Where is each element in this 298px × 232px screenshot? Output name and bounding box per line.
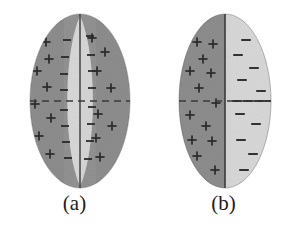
minus-sign (256, 90, 266, 92)
minus-sign (61, 125, 69, 127)
plus-sign (96, 66, 98, 75)
plus-sign (196, 151, 198, 160)
minus-sign (63, 39, 71, 41)
plus-sign (202, 54, 204, 63)
plus-sign (49, 149, 51, 158)
minus-sign (60, 73, 68, 75)
minus-sign (241, 39, 251, 41)
plus-sign (95, 133, 97, 142)
plus-sign (91, 33, 93, 42)
panel-b-caption: (b) (149, 190, 298, 216)
plus-sign (198, 83, 200, 92)
minus-sign (248, 153, 258, 155)
minus-sign (88, 70, 96, 72)
minus-sign (86, 35, 94, 37)
plus-sign (36, 66, 38, 75)
minus-sign (60, 109, 68, 111)
minus-sign (237, 79, 247, 81)
plus-sign (48, 54, 50, 63)
plus-sign (214, 165, 216, 174)
plus-sign (212, 39, 214, 48)
minus-sign (84, 158, 92, 160)
minus-sign (64, 157, 72, 159)
plus-sign (205, 121, 207, 130)
minus-sign (87, 123, 95, 125)
panel-a-caption: (a) (0, 190, 149, 216)
plus-sign (50, 113, 52, 122)
plus-sign (38, 131, 40, 140)
panel-b: (b) (149, 0, 298, 232)
minus-sign (236, 139, 246, 141)
plus-sign (110, 83, 112, 92)
minus-sign (249, 67, 259, 69)
minus-sign (235, 113, 245, 115)
minus-sign (62, 141, 70, 143)
plus-sign (191, 135, 193, 144)
figure-container: (a) (b) (0, 0, 298, 232)
minus-sign (88, 87, 96, 89)
plus-sign (111, 121, 113, 130)
plus-sign (210, 68, 212, 77)
plus-sign (104, 47, 106, 56)
minus-sign (60, 89, 68, 91)
panel-a-ellipse-body (30, 14, 130, 188)
plus-sign (189, 66, 191, 75)
minus-sign (61, 56, 69, 58)
panel-a: (a) (0, 0, 149, 232)
minus-sign (87, 54, 95, 56)
plus-sign (46, 82, 48, 91)
plus-sign (196, 37, 198, 46)
plus-sign (211, 136, 213, 145)
plus-sign (189, 110, 191, 119)
panel-b-ellipse-body (175, 10, 274, 192)
minus-sign (239, 169, 249, 171)
minus-sign (88, 106, 96, 108)
plus-sign (99, 152, 101, 161)
plus-sign (97, 109, 99, 118)
plus-sign (215, 98, 217, 107)
minus-sign (233, 54, 243, 56)
minus-sign (86, 140, 94, 142)
minus-sign (251, 123, 261, 125)
